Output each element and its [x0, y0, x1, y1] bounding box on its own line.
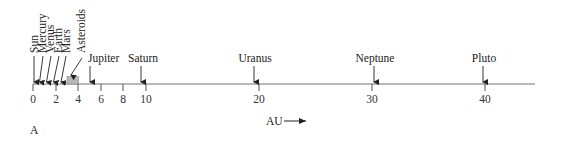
outer-body-labels: Jupiter Saturn Uranus Neptune Pluto	[88, 52, 496, 65]
panel-label: A	[30, 124, 39, 136]
tick-label: 4	[75, 93, 81, 105]
tick-label: 8	[120, 93, 126, 105]
tick-label: 30	[366, 93, 378, 105]
pluto-label: Pluto	[472, 52, 497, 64]
tick-label: 10	[140, 93, 152, 105]
solar-system-distance-diagram: 0 2 4 6 8 10 20 30 40 Sun Mercury Venus …	[0, 0, 563, 143]
asteroids-label: Asteroids	[75, 8, 87, 53]
mars-label: Mars	[60, 29, 72, 53]
jupiter-label: Jupiter	[88, 52, 119, 65]
mars-arrow-icon	[61, 56, 66, 82]
earth-arrow-icon	[54, 56, 60, 82]
tick-label: 40	[479, 93, 491, 105]
asteroid-belt-box	[67, 77, 79, 85]
venus-arrow-icon	[47, 56, 52, 82]
neptune-label: Neptune	[356, 52, 395, 65]
tick-label: 0	[30, 93, 36, 105]
tick-label: 6	[98, 93, 104, 105]
uranus-label: Uranus	[238, 52, 272, 64]
mercury-arrow-icon	[40, 56, 44, 82]
tick-label: 20	[253, 93, 265, 105]
axis-tick-labels: 0 2 4 6 8 10 20 30 40	[30, 93, 491, 105]
saturn-label: Saturn	[128, 52, 158, 64]
axis-ticks	[33, 84, 485, 91]
asteroids-arrow-icon	[71, 58, 82, 75]
outer-body-arrows	[90, 66, 483, 82]
tick-label: 2	[53, 93, 59, 105]
axis-unit-label: AU	[266, 115, 283, 127]
inner-body-labels: Sun Mercury Venus Earth Mars Asteroids	[28, 8, 87, 53]
